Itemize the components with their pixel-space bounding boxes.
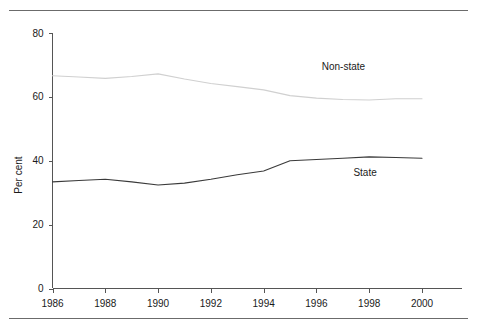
x-tick-label: 1998 (358, 298, 381, 309)
x-tick-group: 19861988199019921994199619982000 (41, 289, 433, 309)
x-tick-label: 1992 (200, 298, 223, 309)
line-chart: 020406080 Per cent 198619881990199219941… (0, 0, 477, 329)
chart-page: 020406080 Per cent 198619881990199219941… (0, 0, 477, 329)
x-axis: 19861988199019921994199619982000 (41, 289, 462, 309)
x-tick-label: 1990 (147, 298, 170, 309)
x-tick-label: 2000 (411, 298, 434, 309)
y-tick-group: 020406080 (32, 28, 52, 295)
y-tick-label: 20 (32, 219, 44, 230)
y-axis: 020406080 Per cent (13, 28, 53, 295)
series-label-state: State (353, 167, 377, 178)
x-tick-label: 1988 (94, 298, 117, 309)
y-tick-label: 40 (32, 155, 44, 166)
series-line-non-state (53, 74, 423, 100)
x-tick-label: 1986 (41, 298, 64, 309)
series-label-group: Non-stateState (322, 61, 377, 178)
y-tick-label: 60 (32, 91, 44, 102)
x-tick-label: 1996 (305, 298, 328, 309)
y-tick-label: 0 (38, 283, 44, 294)
y-axis-title: Per cent (13, 156, 24, 193)
x-tick-label: 1994 (253, 298, 276, 309)
series-label-non-state: Non-state (322, 61, 366, 72)
y-tick-label: 80 (32, 28, 44, 39)
